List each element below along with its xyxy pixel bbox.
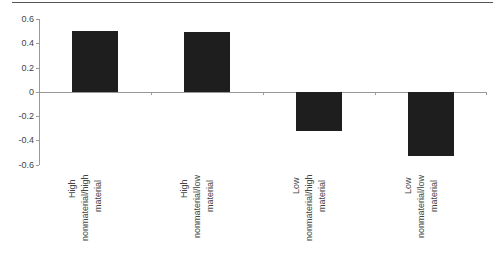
x-label-line: High (179, 179, 189, 198)
y-tick-label: -0.4 (0, 135, 34, 145)
x-label-line: nonmaterial/low (192, 175, 202, 238)
y-tick-label: -0.6 (0, 160, 34, 170)
bar (408, 92, 454, 156)
y-tick-label: 0.2 (0, 63, 34, 73)
x-label-line: High (67, 179, 77, 198)
y-tick (36, 43, 39, 44)
bar (296, 92, 342, 131)
bar-chart: 0.6 0.4 0.2 0 -0.2 -0.4 -0.6 High nonmat… (0, 0, 499, 254)
y-tick (36, 92, 39, 93)
y-tick-label: -0.2 (0, 111, 34, 121)
x-tick (486, 92, 487, 95)
y-tick-label: 0 (0, 87, 34, 97)
x-category-label: Low nonmaterial/low material (398, 174, 468, 234)
x-label-line: Low (403, 177, 413, 194)
bar (72, 31, 118, 92)
x-label-line: Low (291, 177, 301, 194)
y-tick (36, 116, 39, 117)
x-tick (151, 92, 152, 95)
y-tick (36, 19, 39, 20)
x-category-label: High nonmaterial/high material (62, 174, 132, 234)
y-tick (36, 68, 39, 69)
x-label-line: material (93, 180, 103, 212)
x-label-line: nonmaterial/low (416, 175, 426, 238)
y-tick-label: 0.4 (0, 38, 34, 48)
x-label-line: material (317, 180, 327, 212)
x-category-label: High nonmaterial/low material (174, 174, 244, 234)
bar (184, 32, 230, 92)
x-label-line: material (205, 180, 215, 212)
x-label-line: nonmaterial/high (304, 174, 314, 241)
x-tick (263, 92, 264, 95)
x-category-label: Low nonmaterial/high material (286, 174, 356, 234)
x-tick (375, 92, 376, 95)
y-tick-label: 0.6 (0, 14, 34, 24)
x-label-line: material (429, 180, 439, 212)
y-tick (36, 140, 39, 141)
x-label-line: nonmaterial/high (80, 174, 90, 241)
y-tick (36, 165, 39, 166)
